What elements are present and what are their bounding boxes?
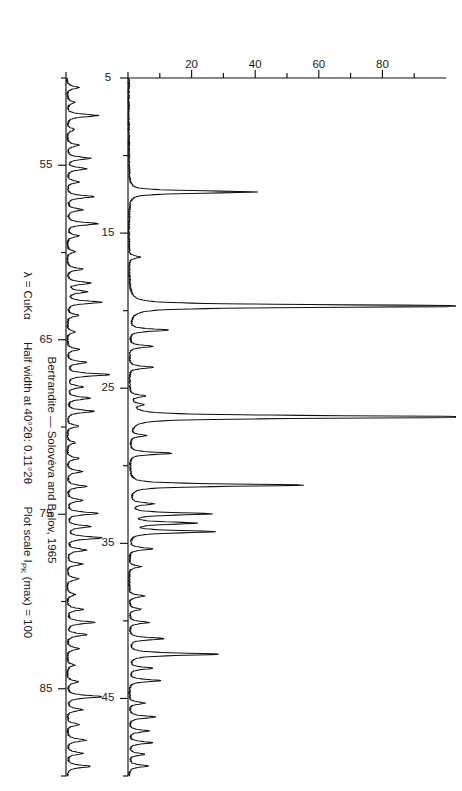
y-axis-tick-label: 40 bbox=[249, 58, 262, 70]
x-axis-tick-label: 65 bbox=[40, 333, 53, 345]
diffraction-pattern-figure: 2040608051525354555657585 bbox=[0, 0, 462, 791]
x-axis-tick-label: 45 bbox=[102, 691, 115, 703]
x-axis-tick-label: 75 bbox=[40, 507, 53, 519]
figure-stage: 2040608051525354555657585 Bertrandite — … bbox=[0, 0, 462, 791]
x-axis-tick-label: 55 bbox=[40, 158, 53, 170]
x-axis-tick-label: 35 bbox=[102, 536, 115, 548]
y-axis-tick-label: 60 bbox=[312, 58, 325, 70]
x-axis-tick-label: 85 bbox=[40, 682, 53, 694]
x-axis-tick-label: 25 bbox=[102, 381, 115, 393]
x-axis-tick-label: 5 bbox=[105, 71, 111, 83]
diffraction-trace-upper-trace bbox=[128, 78, 456, 776]
diffraction-trace-lower-trace bbox=[66, 78, 109, 776]
y-axis-tick-label: 80 bbox=[376, 58, 389, 70]
y-axis-tick-label: 20 bbox=[185, 58, 198, 70]
x-axis-tick-label: 15 bbox=[102, 226, 115, 238]
